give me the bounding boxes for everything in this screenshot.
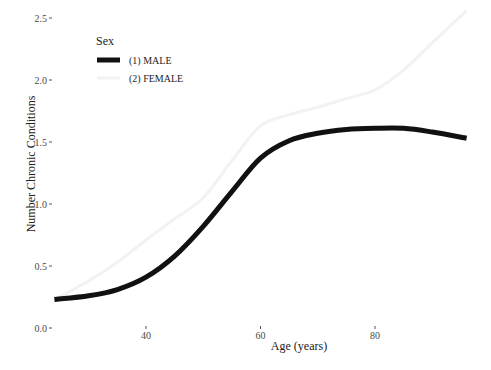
legend: Sex (1) MALE (2) FEMALE bbox=[96, 34, 183, 85]
y-axis-title: Number Chronic Conditions bbox=[24, 95, 38, 232]
x-tick-label: 80 bbox=[370, 330, 380, 341]
y-tick-label: 2.0 bbox=[35, 75, 48, 86]
x-tick-label: 40 bbox=[141, 330, 151, 341]
y-tick-label: 0.5 bbox=[35, 261, 48, 272]
legend-item-male: (1) MALE bbox=[97, 55, 172, 67]
legend-title: Sex bbox=[96, 34, 114, 48]
series-layer bbox=[54, 11, 466, 300]
x-tick-label: 60 bbox=[256, 330, 266, 341]
x-axis-title: Age (years) bbox=[271, 339, 327, 353]
legend-item-female: (2) FEMALE bbox=[97, 73, 183, 85]
legend-label-female: (2) FEMALE bbox=[129, 73, 183, 85]
y-tick-label: 2.5 bbox=[35, 13, 48, 24]
y-tick-label: 0.0 bbox=[35, 323, 48, 334]
legend-label-male: (1) MALE bbox=[129, 55, 172, 67]
x-axis: 406080 bbox=[141, 326, 380, 341]
chart: 0.00.51.01.52.02.5 406080 Age (years) Nu… bbox=[0, 0, 491, 370]
male-series-line bbox=[54, 128, 466, 299]
